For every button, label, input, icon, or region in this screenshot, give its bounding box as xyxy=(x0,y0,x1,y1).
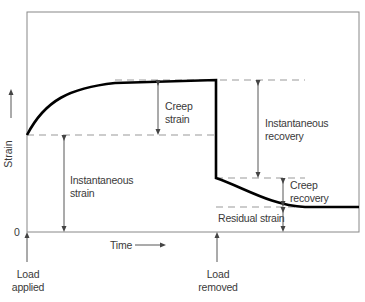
instantaneous-recovery-label: Instantaneous recovery xyxy=(265,117,328,143)
load-applied-label: Load applied xyxy=(10,268,46,294)
creep-diagram-canvas xyxy=(0,0,365,302)
creep-recovery-label: Creep recovery xyxy=(290,179,329,205)
time-label: Time xyxy=(110,239,132,252)
strain-label: Strain xyxy=(2,140,14,167)
creep-strain-label: Creep strain xyxy=(165,100,193,126)
instantaneous-strain-label: Instantaneous strain xyxy=(70,174,133,200)
residual-strain-label: Residual strain xyxy=(218,212,284,225)
origin-label: 0 xyxy=(14,226,20,239)
load-removed-label: Load removed xyxy=(195,268,241,294)
y-axis-label: Strain xyxy=(2,140,14,167)
